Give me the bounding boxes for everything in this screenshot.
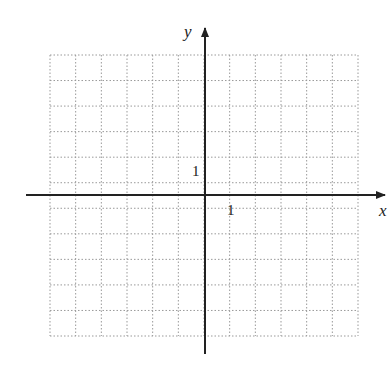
x-tick-label-1: 1 [227,202,235,218]
y-axis-label: y [182,22,192,41]
coordinate-plane: x y 1 1 [0,0,392,383]
x-axis-label: x [378,201,387,220]
y-tick-label-1: 1 [192,163,200,179]
